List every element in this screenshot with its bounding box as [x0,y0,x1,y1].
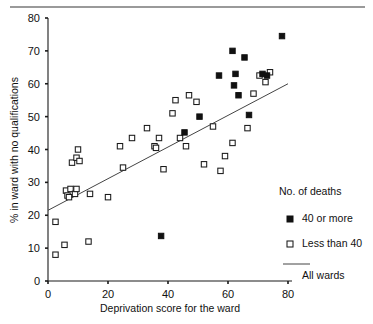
x-tick-label: 80 [282,288,294,300]
data-point [86,239,91,244]
data-point [87,191,92,196]
data-point [186,93,191,98]
data-point [194,99,199,104]
x-tick-label: 0 [45,288,51,300]
data-point [246,112,251,117]
data-point [144,125,149,130]
scatter-plot-figure: 01020304050607080 020406080 Deprivation … [0,0,373,324]
y-tick-label: 10 [28,242,40,254]
data-point [279,33,284,38]
data-point [156,135,161,140]
data-point [66,194,71,199]
legend-title: No. of deaths [279,185,341,197]
x-tick-label: 60 [222,288,234,300]
legend-open-square-icon [287,241,293,247]
data-point [182,130,187,135]
data-point [161,167,166,172]
data-point [53,252,58,257]
data-point [77,158,82,163]
data-point [263,79,268,84]
y-tick-label: 70 [28,45,40,57]
data-point [117,144,122,149]
data-point [158,233,163,238]
data-point [251,91,256,96]
data-point [153,145,158,150]
data-point [231,83,236,88]
y-tick-label: 40 [28,144,40,156]
data-point [216,73,221,78]
data-point [74,186,79,191]
data-point [177,135,182,140]
y-tick-label: 20 [28,209,40,221]
y-axis-ticks: 01020304050607080 [28,12,48,287]
y-tick-label: 80 [28,12,40,24]
data-point [264,73,269,78]
data-point [230,48,235,53]
legend-item-40-or-more: 40 or more [302,212,353,224]
data-point [129,135,134,140]
x-tick-label: 20 [102,288,114,300]
data-point [53,219,58,224]
data-point [170,111,175,116]
data-point [75,147,80,152]
data-point [245,125,250,130]
x-tick-label: 40 [162,288,174,300]
axes-group [48,18,292,281]
legend: No. of deaths 40 or more Less than 40 Al… [279,185,362,281]
data-point [236,93,241,98]
y-tick-label: 30 [28,176,40,188]
legend-item-all-wards: All wards [302,269,345,281]
y-tick-label: 60 [28,78,40,90]
data-point [197,114,202,119]
x-axis-title: Deprivation score for the ward [100,302,240,314]
data-point [183,144,188,149]
data-point [233,71,238,76]
legend-item-less-than-40: Less than 40 [302,237,362,249]
all-wards-trend-line [48,84,288,211]
chart-canvas: 01020304050607080 020406080 Deprivation … [0,0,373,324]
data-point [242,55,247,60]
x-axis-ticks: 020406080 [45,281,294,300]
y-axis-title: % in ward with no qualifications [8,77,20,223]
data-point [201,162,206,167]
data-point [173,97,178,102]
data-point [120,165,125,170]
data-point [210,124,215,129]
legend-filled-square-icon [287,216,293,222]
data-point [230,140,235,145]
data-point [105,194,110,199]
y-tick-label: 50 [28,111,40,123]
data-point [62,242,67,247]
y-tick-label: 0 [34,275,40,287]
data-point [218,168,223,173]
data-point [222,153,227,158]
